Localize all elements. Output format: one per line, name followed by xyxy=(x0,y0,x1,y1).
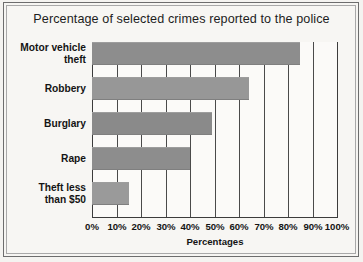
bar xyxy=(92,112,212,135)
category-label: Robbery xyxy=(2,83,86,95)
gridline xyxy=(313,42,314,217)
category-label: Theft lessthan $50 xyxy=(2,182,86,205)
gridline xyxy=(337,42,338,217)
chart-figure: Percentage of selected crimes reported t… xyxy=(0,0,363,262)
category-label-line: than $50 xyxy=(2,194,86,206)
plot-area xyxy=(92,42,337,217)
category-label-line: theft xyxy=(2,54,86,66)
category-label-line: Motor vehicle xyxy=(2,42,86,54)
bar xyxy=(92,182,129,205)
category-label-line: Robbery xyxy=(2,83,86,95)
bar xyxy=(92,42,300,65)
bar xyxy=(92,77,249,100)
chart-title: Percentage of selected crimes reported t… xyxy=(0,12,363,26)
category-label: Rape xyxy=(2,153,86,165)
gridline xyxy=(288,42,289,217)
x-axis-line xyxy=(92,217,338,218)
gridline xyxy=(239,42,240,217)
bar xyxy=(92,147,190,170)
category-label: Motor vehicletheft xyxy=(2,42,86,65)
tick-label: 100% xyxy=(317,221,357,232)
category-label-line: Burglary xyxy=(2,118,86,130)
gridline xyxy=(215,42,216,217)
x-axis-title: Percentages xyxy=(92,236,338,247)
category-label: Burglary xyxy=(2,118,86,130)
y-axis-category-labels: Motor vehicletheftRobberyBurglaryRapeThe… xyxy=(0,42,86,217)
gridline xyxy=(264,42,265,217)
category-label-line: Rape xyxy=(2,153,86,165)
category-label-line: Theft less xyxy=(2,182,86,194)
